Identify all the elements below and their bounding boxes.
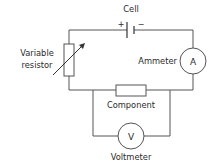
voltmeter-label: Voltmeter — [111, 152, 152, 162]
cell-symbol — [127, 22, 134, 38]
component-resistor — [116, 85, 146, 96]
variable-resistor-label-line2: resistor — [21, 60, 53, 70]
wire-top-right — [134, 30, 193, 48]
variable-resistor-body — [64, 44, 74, 76]
wire-right-bottom — [146, 74, 193, 90]
cell-minus-sign: − — [138, 20, 145, 29]
component-label: Component — [107, 100, 156, 110]
variable-resistor-label-line1: Variable — [20, 48, 54, 58]
cell-plus-sign: + — [118, 20, 125, 29]
ammeter-letter: A — [190, 57, 197, 67]
ammeter-label: Ammeter — [138, 56, 177, 66]
cell-label: Cell — [123, 4, 139, 14]
wire-left-bottom — [69, 76, 116, 90]
circuit-diagram: Cell + − Variable resistor A Ammeter Com… — [0, 0, 211, 163]
voltmeter-letter: V — [128, 132, 135, 142]
